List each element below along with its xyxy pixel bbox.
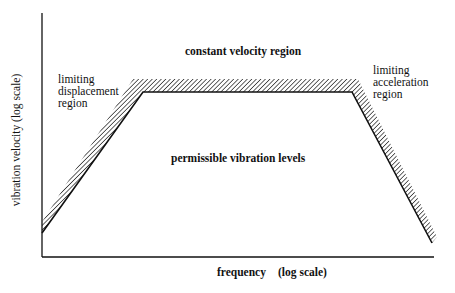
limiting-displacement-line-1: limiting — [58, 73, 119, 85]
y-axis-label: vibration velocity (log scale) — [10, 74, 22, 207]
diagram-svg — [0, 0, 455, 293]
vibration-limits-diagram: vibration velocity (log scale) constant … — [0, 0, 455, 293]
limiting-displacement-line-2: displacement — [58, 85, 119, 97]
limiting-displacement-label: limiting displacement region — [58, 73, 119, 109]
constant-velocity-label: constant velocity region — [185, 45, 301, 57]
limiting-acceleration-label: limiting acceleration region — [373, 64, 429, 100]
limiting-acceleration-line-3: region — [373, 88, 429, 100]
limiting-acceleration-line-2: acceleration — [373, 76, 429, 88]
x-axis-scale-label: (log scale) — [278, 266, 327, 278]
permissible-vibration-label: permissible vibration levels — [171, 152, 305, 164]
limiting-displacement-line-3: region — [58, 97, 119, 109]
limiting-acceleration-line-1: limiting — [373, 64, 429, 76]
x-axis-label: frequency — [217, 266, 266, 278]
